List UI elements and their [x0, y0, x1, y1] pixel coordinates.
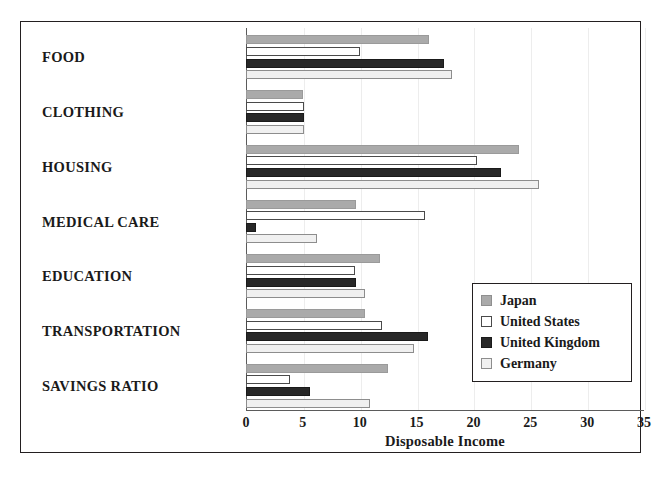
bar-japan-transportation — [246, 309, 365, 318]
gridline — [645, 28, 646, 410]
bar-us-food — [246, 47, 360, 56]
category-label: CLOTHING — [42, 104, 124, 121]
bar-us-education — [246, 266, 355, 275]
bar-uk-food — [246, 59, 444, 68]
bar-us-medical-care — [246, 211, 425, 220]
bar-us-clothing — [246, 102, 304, 111]
bar-japan-clothing — [246, 90, 303, 99]
x-tick-label: 10 — [353, 415, 367, 431]
bar-chart-figure: FOODCLOTHINGHOUSINGMEDICAL CAREEDUCATION… — [0, 0, 662, 481]
x-axis-title: Disposable Income — [246, 433, 644, 450]
bar-germany-savings-ratio — [246, 399, 370, 408]
bar-uk-medical-care — [246, 223, 256, 232]
legend-label-united-states: United States — [500, 314, 580, 330]
bar-us-transportation — [246, 321, 382, 330]
legend-swatch-icon-united-states — [481, 316, 492, 327]
bar-japan-housing — [246, 145, 519, 154]
x-tick-label: 30 — [580, 415, 594, 431]
bar-uk-savings-ratio — [246, 387, 310, 396]
legend-label-germany: Germany — [500, 356, 557, 372]
bar-uk-transportation — [246, 332, 428, 341]
legend-item-united-kingdom: United Kingdom — [481, 332, 623, 353]
bar-germany-education — [246, 289, 365, 298]
legend-swatch-icon-germany — [481, 358, 492, 369]
x-tick-label: 15 — [410, 415, 424, 431]
bar-japan-education — [246, 254, 380, 263]
legend-item-germany: Germany — [481, 353, 623, 374]
bar-germany-medical-care — [246, 234, 317, 243]
category-axis-labels: FOODCLOTHINGHOUSINGMEDICAL CAREEDUCATION… — [42, 28, 242, 411]
bar-germany-food — [246, 70, 452, 79]
category-label: MEDICAL CARE — [42, 213, 160, 230]
legend-item-united-states: United States — [481, 311, 623, 332]
category-label: FOOD — [42, 49, 85, 66]
category-label: SAVINGS RATIO — [42, 377, 159, 394]
category-label: TRANSPORTATION — [42, 322, 181, 339]
legend: Japan United States United Kingdom Germa… — [472, 283, 632, 382]
bar-us-savings-ratio — [246, 375, 290, 384]
bar-germany-clothing — [246, 125, 304, 134]
x-tick-label: 35 — [637, 415, 651, 431]
bar-us-housing — [246, 156, 477, 165]
legend-item-japan: Japan — [481, 290, 623, 311]
x-tick-label: 20 — [466, 415, 480, 431]
bar-japan-medical-care — [246, 200, 356, 209]
legend-swatch-icon-japan — [481, 295, 492, 306]
bar-uk-education — [246, 278, 356, 287]
legend-label-united-kingdom: United Kingdom — [500, 335, 600, 351]
category-label: HOUSING — [42, 158, 113, 175]
legend-label-japan: Japan — [500, 293, 537, 309]
bar-japan-food — [246, 35, 429, 44]
bar-germany-housing — [246, 180, 539, 189]
bar-japan-savings-ratio — [246, 364, 388, 373]
legend-swatch-icon-united-kingdom — [481, 337, 492, 348]
bar-uk-housing — [246, 168, 501, 177]
bar-uk-clothing — [246, 113, 304, 122]
x-tick-label: 0 — [243, 415, 250, 431]
x-tick-label: 25 — [523, 415, 537, 431]
x-axis-ticks: 05101520253035 — [246, 411, 644, 435]
x-tick-label: 5 — [299, 415, 306, 431]
category-label: EDUCATION — [42, 268, 132, 285]
bar-germany-transportation — [246, 344, 414, 353]
